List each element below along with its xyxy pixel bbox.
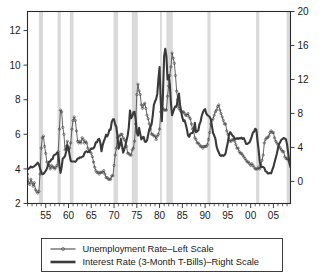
chart-legend: Unemployment Rate–Left ScaleInterest Rat… — [42, 239, 283, 272]
x-tick-label: 90 — [200, 210, 212, 221]
right-tick-label: 8 — [298, 108, 304, 119]
left-tick-label: 6 — [15, 129, 21, 140]
chart-figure: 5560657075808590950005 24681012 04812162… — [0, 0, 323, 280]
x-tick-label: 75 — [131, 210, 143, 221]
legend-item: Interest Rate (3-Month T-Bills)–Right Sc… — [51, 257, 260, 267]
left-tick-label: 8 — [15, 94, 21, 105]
dual-axis-line-chart: 5560657075808590950005 24681012 04812162… — [0, 0, 323, 280]
legend-label: Unemployment Rate–Left Scale — [83, 244, 214, 254]
x-tick-label: 65 — [86, 210, 98, 221]
recession-band — [207, 12, 210, 204]
right-tick-label: 16 — [298, 40, 310, 51]
right-tick-label: 12 — [298, 74, 310, 85]
recession-band — [287, 12, 291, 204]
x-tick-label: 85 — [177, 210, 189, 221]
recession-band — [256, 12, 259, 204]
x-tick-label: 55 — [40, 210, 52, 221]
x-tick-label: 95 — [222, 210, 234, 221]
left-tick-label: 10 — [9, 60, 21, 71]
x-tick-label: 80 — [154, 210, 166, 221]
x-tick-label: 00 — [245, 210, 257, 221]
x-tick-label: 05 — [268, 210, 280, 221]
left-tick-label: 2 — [15, 198, 21, 209]
right-tick-label: 20 — [298, 6, 310, 17]
right-tick-label: 4 — [298, 142, 304, 153]
recession-band — [70, 12, 74, 204]
x-tick-label: 70 — [108, 210, 120, 221]
recession-band — [132, 12, 138, 204]
right-tick-label: 0 — [298, 176, 304, 187]
x-tick-label: 60 — [63, 210, 75, 221]
left-tick-label: 12 — [9, 25, 21, 36]
recession-band — [58, 12, 61, 204]
left-tick-label: 4 — [15, 164, 21, 175]
recession-band — [114, 12, 119, 204]
legend-label: Interest Rate (3-Month T-Bills)–Right Sc… — [83, 257, 260, 267]
